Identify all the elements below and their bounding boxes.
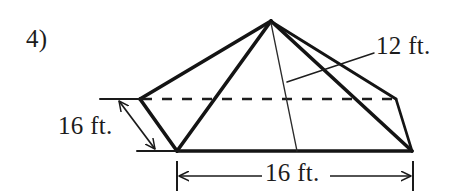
pyramid-figure: 4) 12 ft. 16 ft. 16 ft. <box>0 0 458 195</box>
slant-height-label: 12 ft. <box>376 33 431 58</box>
pyramid-body <box>140 21 412 151</box>
pyramid-face-fill <box>140 21 412 151</box>
left-height-label: 16 ft. <box>58 113 113 138</box>
problem-number-label: 4) <box>26 26 47 51</box>
pyramid-diagram-canvas <box>0 0 458 195</box>
base-width-label: 16 ft. <box>262 160 323 185</box>
